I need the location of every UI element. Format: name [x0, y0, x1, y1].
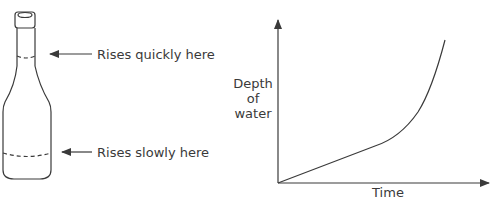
bottle-cap-top: [18, 13, 32, 18]
depth-time-graph: Depth of water Time: [233, 20, 489, 200]
y-axis-label-line-3: water: [234, 106, 272, 121]
depth-curve: [278, 40, 445, 183]
y-axis-label-line-2: of: [247, 91, 260, 106]
neck-water-line: [17, 56, 35, 58]
annotation-rises-quickly: Rises quickly here: [50, 47, 215, 62]
annotation-rises-slowly: Rises slowly here: [62, 145, 209, 160]
bottle: [3, 12, 51, 179]
annotation-text: Rises slowly here: [97, 145, 209, 160]
annotation-text: Rises quickly here: [97, 47, 215, 62]
body-water-line: [3, 153, 51, 157]
x-axis-label: Time: [371, 185, 404, 200]
diagram-canvas: Rises quickly here Rises slowly here Dep…: [0, 0, 497, 202]
y-axis-label-line-1: Depth: [233, 76, 273, 91]
